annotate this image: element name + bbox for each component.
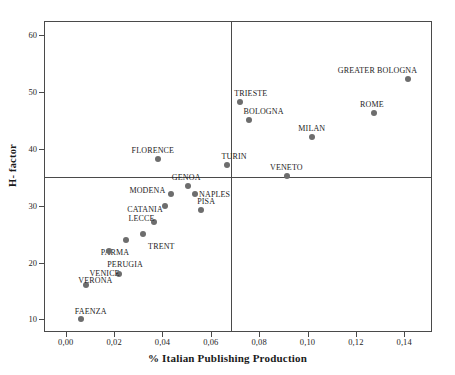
y-axis-tick-label: 30	[20, 201, 37, 211]
reference-line-horizontal	[44, 177, 432, 178]
y-axis-tick-label: 50	[20, 87, 37, 97]
data-point[interactable]	[78, 316, 84, 322]
y-axis-tick	[39, 35, 44, 36]
y-axis-tick	[39, 92, 44, 93]
x-axis-tick-label: 0,14	[397, 337, 412, 347]
data-point[interactable]	[405, 76, 411, 82]
y-axis-tick	[39, 263, 44, 264]
data-point-label: PISA	[197, 197, 215, 206]
x-axis-tick-label: 0,10	[300, 337, 315, 347]
y-axis-tick-label: 60	[20, 30, 37, 40]
scatter-chart: 0,000,020,040,060,080,100,120,14 1020304…	[0, 0, 455, 375]
data-point-label: LECCE	[129, 214, 155, 223]
data-point-label: TRIESTE	[234, 89, 267, 98]
y-axis-tick-label: 10	[20, 314, 37, 324]
data-point-label: FLORENCE	[132, 146, 175, 155]
x-axis-tick-label: 0,00	[58, 337, 73, 347]
data-point-label: PARMA	[101, 248, 129, 257]
y-axis-tick	[39, 149, 44, 150]
y-axis-title: H- factor	[7, 126, 18, 206]
x-axis-tick-label: 0,12	[348, 337, 363, 347]
data-point-label: VERONA	[78, 276, 112, 285]
x-axis-tick-label: 0,02	[106, 337, 121, 347]
data-point-label: VENETO	[270, 163, 303, 172]
data-point-label: CATANIA	[127, 205, 163, 214]
data-point-label: MILAN	[298, 124, 325, 133]
data-point[interactable]	[224, 162, 230, 168]
data-point[interactable]	[237, 99, 243, 105]
data-point-label: FAENZA	[75, 307, 107, 316]
data-point-label: MODENA	[129, 186, 165, 195]
x-axis-tick-label: 0,06	[203, 337, 218, 347]
x-axis-tick-label: 0,08	[252, 337, 267, 347]
y-axis-tick-label: 40	[20, 144, 37, 154]
y-axis-tick	[39, 206, 44, 207]
data-point[interactable]	[371, 110, 377, 116]
data-point[interactable]	[155, 156, 161, 162]
data-point-label: GENOA	[172, 173, 201, 182]
data-point-label: GREATER BOLOGNA	[338, 66, 417, 75]
data-point[interactable]	[123, 237, 129, 243]
data-point-label: TURIN	[222, 152, 247, 161]
data-point-label: PERUGIA	[107, 260, 143, 269]
x-axis-title: % Italian Publishing Production	[0, 352, 455, 364]
x-axis-tick-label: 0,04	[155, 337, 170, 347]
data-point-label: TRENT	[148, 242, 175, 251]
y-axis-tick	[39, 319, 44, 320]
y-axis-tick-label: 20	[20, 258, 37, 268]
data-point-label: ROME	[360, 100, 384, 109]
data-point-label: BOLOGNA	[243, 107, 283, 116]
